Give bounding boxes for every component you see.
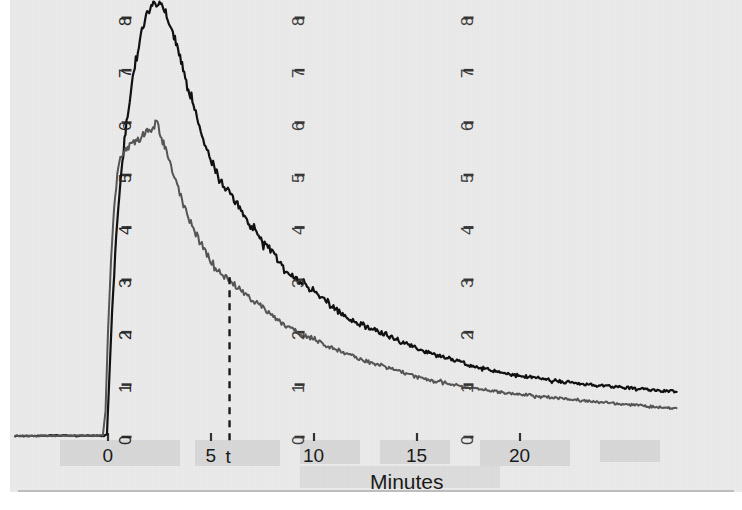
- figure-container: 012345678012345678012345678 05101520 t M…: [0, 0, 742, 510]
- y-tick-label: 2: [459, 331, 476, 340]
- y-tick-label: 5: [117, 174, 134, 183]
- x-tick-label: 20: [509, 446, 530, 465]
- y-tick-label: 7: [290, 69, 307, 78]
- y-tick-label: 5: [459, 174, 476, 183]
- y-tick-label: 5: [290, 174, 307, 183]
- y-tick-label: 7: [459, 69, 476, 78]
- x-tick-label: 15: [406, 446, 427, 465]
- t-marker-label: t: [226, 446, 231, 468]
- y-tick-label: 0: [290, 436, 307, 445]
- trace-upper-trace: [15, 2, 676, 437]
- y-tick-label: 1: [117, 383, 134, 392]
- y-tick-label: 6: [290, 121, 307, 130]
- y-tick-label: 3: [117, 278, 134, 287]
- y-tick-label: 8: [117, 16, 134, 25]
- plate-bottom-rule: [18, 490, 734, 492]
- x-tick-label: 0: [103, 446, 114, 465]
- x-tick-label: 5: [206, 446, 217, 465]
- chart-plot-area: [0, 0, 742, 510]
- y-tick-label: 2: [290, 331, 307, 340]
- y-tick-label: 0: [117, 436, 134, 445]
- y-tick-label: 8: [459, 16, 476, 25]
- y-tick-label: 6: [117, 121, 134, 130]
- y-tick-label: 6: [459, 121, 476, 130]
- y-tick-label: 7: [117, 69, 134, 78]
- y-tick-label: 3: [290, 278, 307, 287]
- y-tick-label: 1: [459, 383, 476, 392]
- x-tick-label: 10: [303, 446, 324, 465]
- y-tick-label: 4: [117, 226, 134, 235]
- y-tick-label: 3: [459, 278, 476, 287]
- y-tick-label: 2: [117, 331, 134, 340]
- y-tick-label: 8: [290, 16, 307, 25]
- y-tick-label: 0: [459, 436, 476, 445]
- y-tick-label: 1: [290, 383, 307, 392]
- y-tick-label: 4: [290, 226, 307, 235]
- y-tick-label: 4: [459, 226, 476, 235]
- data-traces-layer: [15, 2, 676, 437]
